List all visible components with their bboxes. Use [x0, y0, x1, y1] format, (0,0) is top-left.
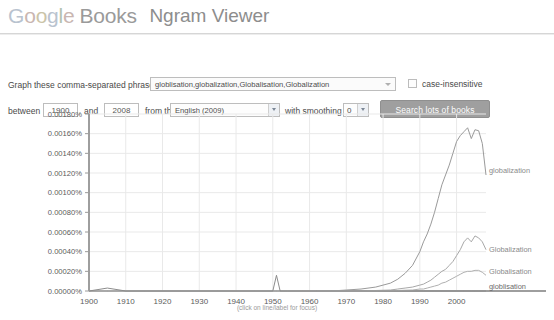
- series-line-Globalization[interactable]: [89, 236, 486, 291]
- y-axis-tick-label: 0.00140%: [48, 149, 82, 158]
- phrases-input-value: globlisation,globalization,Globalisation…: [155, 80, 329, 89]
- y-axis-tick-label: 0.00120%: [48, 169, 82, 178]
- chart-caption: (click on line/label for focus): [0, 304, 554, 311]
- series-line-Globalisation[interactable]: [89, 270, 486, 291]
- app-header: GoogleBooks Ngram Viewer: [8, 4, 269, 28]
- series-label-Globalization[interactable]: Globalization: [489, 245, 532, 254]
- series-label-globalization[interactable]: globalization: [489, 166, 530, 175]
- y-axis-tick-label: 0.00000%: [48, 287, 82, 296]
- ngram-chart[interactable]: 0.00180%0.00160%0.00140%0.00120%0.00100%…: [0, 100, 554, 320]
- phrases-input[interactable]: globlisation,globalization,Globalisation…: [150, 77, 396, 91]
- y-axis-tick-label: 0.00100%: [48, 188, 82, 197]
- y-axis-tick-label: 0.00080%: [48, 208, 82, 217]
- series-label-globlisation[interactable]: globlisation: [489, 282, 526, 291]
- chart-svg[interactable]: 0.00180%0.00160%0.00140%0.00120%0.00100%…: [0, 100, 554, 320]
- ngram-viewer-page: GoogleBooks Ngram Viewer Graph these com…: [0, 0, 554, 320]
- y-axis-tick-label: 0.00020%: [48, 267, 82, 276]
- product-title: Ngram Viewer: [149, 5, 269, 27]
- y-axis-tick-label: 0.00180%: [48, 110, 82, 119]
- header-divider-shadow: [0, 34, 554, 35]
- books-wordmark: Books: [80, 4, 137, 27]
- series-label-Globalisation[interactable]: Globalisation: [489, 267, 532, 276]
- case-insensitive-label: case-insensitive: [422, 79, 482, 89]
- series-line-globalization[interactable]: [89, 128, 486, 291]
- case-insensitive-checkbox[interactable]: [408, 79, 417, 88]
- y-axis-tick-label: 0.00040%: [48, 247, 82, 256]
- y-axis-tick-label: 0.00160%: [48, 129, 82, 138]
- chevron-down-icon[interactable]: [385, 83, 391, 86]
- google-logo: GoogleBooks: [8, 4, 137, 28]
- phrases-label: Graph these comma-separated phrases:: [8, 80, 161, 90]
- y-axis-tick-label: 0.00060%: [48, 228, 82, 237]
